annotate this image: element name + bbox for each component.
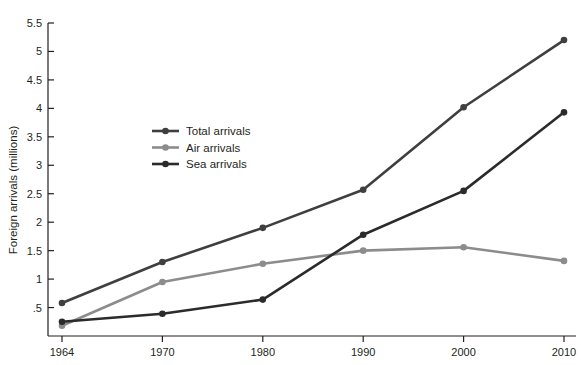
series-group (59, 37, 568, 329)
data-point-marker (360, 231, 367, 238)
data-point-marker (460, 244, 467, 251)
y-tick-label: 1 (36, 273, 42, 285)
y-tick-label: 3.5 (27, 131, 42, 143)
data-point-marker (159, 311, 166, 318)
chart-legend: Total arrivalsAir arrivalsSea arrivals (152, 125, 251, 170)
y-axis-title: Foreign arrivals (millions) (7, 126, 19, 255)
legend-item-label: Sea arrivals (186, 158, 247, 170)
y-axis-title-label: Foreign arrivals (millions) (7, 126, 19, 255)
line-chart: Foreign arrivals (millions) .511.522.533… (0, 0, 587, 365)
x-tick-label: 1980 (251, 346, 275, 358)
y-tick-label: .5 (33, 302, 42, 314)
data-point-marker (561, 37, 568, 44)
x-tick-label: 2010 (552, 346, 576, 358)
y-tick-label: 4.5 (27, 74, 42, 86)
y-axis-ticks: .511.522.533.544.555.5 (27, 17, 54, 314)
series-line (62, 247, 564, 326)
data-point-marker (260, 260, 267, 267)
y-tick-label: 3 (36, 159, 42, 171)
series-line (62, 112, 564, 321)
data-point-marker (460, 104, 467, 111)
y-tick-label: 5.5 (27, 17, 42, 29)
data-point-marker (159, 259, 166, 266)
x-tick-label: 1964 (50, 346, 74, 358)
x-tick-label: 1990 (351, 346, 375, 358)
y-tick-label: 1.5 (27, 245, 42, 257)
data-point-marker (561, 109, 568, 116)
data-point-marker (360, 186, 367, 193)
data-point-marker (460, 188, 467, 195)
y-tick-label: 2.5 (27, 188, 42, 200)
data-point-marker (159, 279, 166, 286)
legend-swatch-marker (162, 161, 169, 168)
data-point-marker (59, 318, 66, 325)
legend-item-label: Total arrivals (186, 125, 251, 137)
y-tick-label: 2 (36, 216, 42, 228)
y-tick-label: 4 (36, 102, 42, 114)
legend-swatch-marker (162, 128, 169, 135)
data-point-marker (260, 225, 267, 232)
legend-item-label: Air arrivals (186, 142, 241, 154)
chart-canvas: Foreign arrivals (millions) .511.522.533… (0, 0, 587, 365)
x-axis-ticks: 196419701980199020002010 (50, 336, 576, 358)
legend-swatch-marker (162, 144, 169, 151)
axis-lines (48, 23, 576, 336)
x-tick-label: 1970 (150, 346, 174, 358)
x-tick-label: 2000 (451, 346, 475, 358)
data-point-marker (360, 247, 367, 254)
data-point-marker (561, 258, 568, 265)
y-tick-label: 5 (36, 45, 42, 57)
data-point-marker (59, 300, 66, 307)
data-point-marker (260, 296, 267, 303)
